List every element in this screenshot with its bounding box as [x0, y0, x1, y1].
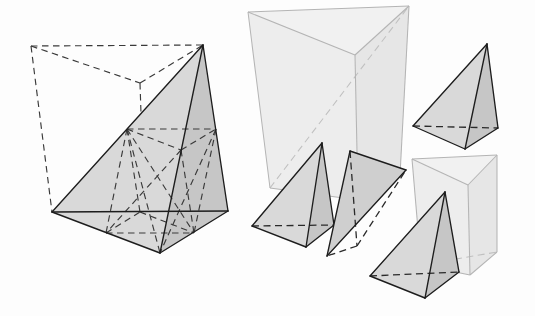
tetra-top-right: [413, 44, 498, 149]
geometry-figure-root: [0, 0, 535, 316]
tetra-bottom: [370, 192, 459, 298]
geometry-diagram: [0, 0, 535, 316]
construction-edge-top-long: [31, 45, 203, 46]
construction-edge-vertical-left: [31, 46, 52, 212]
construction-edge-top-left-mid: [31, 46, 140, 83]
